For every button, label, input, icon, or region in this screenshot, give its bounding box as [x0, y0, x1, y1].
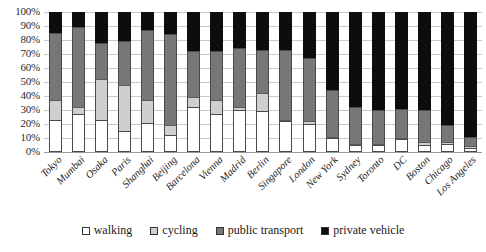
stacked-bar[interactable] [141, 12, 154, 152]
bar-segment-public-transport [256, 50, 269, 93]
stacked-bar[interactable] [164, 12, 177, 152]
bar-segment-private-vehicle [464, 12, 477, 137]
x-tick-label-text: Osaka [83, 154, 110, 181]
legend-item-private-vehicle[interactable]: private vehicle [321, 224, 404, 237]
bar-segment-walking [303, 124, 316, 152]
bar-column[interactable] [90, 12, 113, 152]
bar-segment-walking [233, 110, 246, 152]
bar-column[interactable] [367, 12, 390, 152]
bar-segment-private-vehicle [279, 12, 292, 50]
bar-segment-private-vehicle [233, 12, 246, 48]
legend-swatch-public-transport [216, 227, 224, 235]
bar-column[interactable] [344, 12, 367, 152]
y-tick-label: 30% [20, 104, 40, 115]
chart-legend: walkingcyclingpublic transportprivate ve… [0, 224, 486, 237]
bar-segment-walking [441, 144, 454, 152]
bar-column[interactable] [436, 12, 459, 152]
bar-segment-public-transport [187, 51, 200, 97]
bar-segment-public-transport [441, 125, 454, 142]
stacked-bar[interactable] [441, 12, 454, 152]
bar-column[interactable] [44, 12, 67, 152]
legend-swatch-cycling [150, 227, 158, 235]
bar-segment-walking [256, 111, 269, 152]
bar-segment-private-vehicle [210, 12, 223, 51]
bar-column[interactable] [413, 12, 436, 152]
y-tick-label: 70% [20, 48, 40, 59]
gridline [44, 152, 482, 153]
stacked-bar[interactable] [49, 12, 62, 152]
bar-segment-walking [49, 120, 62, 152]
y-tick-label: 80% [20, 34, 40, 45]
stacked-bar[interactable] [326, 12, 339, 152]
stacked-bar[interactable] [372, 12, 385, 152]
y-tick-label: 0% [26, 146, 40, 157]
bar-segment-public-transport [49, 33, 62, 100]
bar-segment-cycling [118, 85, 131, 131]
bar-segment-private-vehicle [72, 12, 85, 27]
legend-item-cycling[interactable]: cycling [150, 224, 197, 237]
stacked-bar[interactable] [464, 12, 477, 152]
bar-segment-walking [418, 145, 431, 152]
bar-segment-cycling [187, 97, 200, 107]
bar-segment-public-transport [349, 107, 362, 143]
legend-item-public-transport[interactable]: public transport [216, 224, 304, 237]
bar-column[interactable] [136, 12, 159, 152]
plot-area [44, 12, 482, 152]
y-tick-label: 60% [20, 62, 40, 73]
bar-segment-cycling [49, 100, 62, 120]
bar-segment-walking [95, 120, 108, 152]
bar-segment-public-transport [118, 41, 131, 84]
bar-segment-walking [118, 131, 131, 152]
bar-segment-private-vehicle [49, 12, 62, 33]
legend-label: walking [94, 224, 133, 237]
bar-segment-private-vehicle [256, 12, 269, 50]
bar-segment-private-vehicle [164, 12, 177, 34]
legend-swatch-private-vehicle [321, 227, 329, 235]
legend-label: cycling [162, 224, 197, 237]
bar-segment-walking [210, 114, 223, 152]
stacked-bar[interactable] [118, 12, 131, 152]
legend-item-walking[interactable]: walking [82, 224, 133, 237]
bar-column[interactable] [321, 12, 344, 152]
y-tick-label: 50% [20, 76, 40, 87]
bar-segment-private-vehicle [95, 12, 108, 43]
bar-column[interactable] [228, 12, 251, 152]
stacked-bar[interactable] [349, 12, 362, 152]
stacked-bar[interactable] [279, 12, 292, 152]
stacked-bar[interactable] [418, 12, 431, 152]
bar-segment-public-transport [303, 58, 316, 121]
stacked-bar[interactable] [303, 12, 316, 152]
bar-segment-private-vehicle [303, 12, 316, 58]
bar-segment-public-transport [395, 109, 408, 138]
bar-column[interactable] [274, 12, 297, 152]
stacked-bar[interactable] [95, 12, 108, 152]
stacked-bar[interactable] [72, 12, 85, 152]
bar-column[interactable] [298, 12, 321, 152]
bar-segment-private-vehicle [118, 12, 131, 41]
y-tick-label: 90% [20, 20, 40, 31]
bar-segment-cycling [72, 107, 85, 114]
bar-column[interactable] [182, 12, 205, 152]
stacked-bar[interactable] [256, 12, 269, 152]
bar-column[interactable] [251, 12, 274, 152]
bar-segment-walking [349, 145, 362, 152]
stacked-bar[interactable] [210, 12, 223, 152]
legend-label: public transport [228, 224, 304, 237]
bar-segment-public-transport [326, 90, 339, 136]
y-tick-label: 10% [20, 132, 40, 143]
bar-column[interactable] [205, 12, 228, 152]
stacked-bar[interactable] [233, 12, 246, 152]
stacked-bar[interactable] [187, 12, 200, 152]
y-tick-label: 20% [20, 118, 40, 129]
x-tick-label-text: DC [391, 154, 409, 172]
bar-segment-private-vehicle [418, 12, 431, 110]
bar-column[interactable] [67, 12, 90, 152]
bar-segment-public-transport [233, 48, 246, 107]
bar-column[interactable] [459, 12, 482, 152]
bar-segment-cycling [95, 79, 108, 120]
bar-column[interactable] [390, 12, 413, 152]
bar-segment-walking [72, 114, 85, 152]
bar-column[interactable] [159, 12, 182, 152]
bar-column[interactable] [113, 12, 136, 152]
stacked-bar[interactable] [395, 12, 408, 152]
